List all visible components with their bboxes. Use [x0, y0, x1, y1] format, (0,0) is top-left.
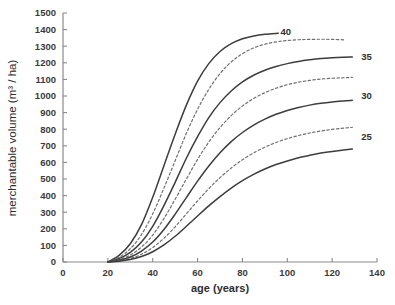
y-tick-label: 1000 — [35, 90, 56, 101]
merchantable-volume-line-chart: 0100200300400500600700800900100011001200… — [0, 0, 395, 305]
y-tick-label: 0 — [51, 256, 56, 267]
series-curve-32.5 — [108, 77, 352, 262]
x-tick-label: 120 — [324, 267, 340, 278]
series-curve-37.5 — [108, 39, 346, 262]
y-axis-title: merchantable volume (m³ / ha) — [6, 60, 18, 217]
x-tick-label: 80 — [237, 267, 248, 278]
series-label-40: 40 — [281, 26, 292, 37]
y-tick-label: 300 — [40, 207, 56, 218]
y-tick-group: 0100200300400500600700800900100011001200… — [35, 7, 67, 267]
x-tick-label: 0 — [60, 267, 65, 278]
x-axis-title: age (years) — [191, 282, 249, 294]
y-tick-label: 1100 — [35, 74, 56, 85]
y-tick-label: 100 — [40, 240, 56, 251]
y-tick-label: 1400 — [35, 24, 56, 35]
y-tick-label: 600 — [40, 157, 56, 168]
x-tick-label: 60 — [192, 267, 203, 278]
x-tick-label: 40 — [147, 267, 158, 278]
y-tick-label: 400 — [40, 190, 56, 201]
series-label-25: 25 — [361, 131, 372, 142]
curve-group — [108, 33, 352, 262]
y-tick-label: 500 — [40, 173, 56, 184]
y-tick-label: 800 — [40, 124, 56, 135]
series-curve-35 — [108, 57, 352, 262]
series-curve-40 — [108, 33, 278, 262]
x-tick-label: 20 — [103, 267, 114, 278]
series-curve-27.5 — [108, 127, 352, 262]
y-tick-label: 200 — [40, 223, 56, 234]
series-label-30: 30 — [361, 90, 372, 101]
y-tick-label: 700 — [40, 140, 56, 151]
y-tick-label: 900 — [40, 107, 56, 118]
series-label-group: 40353025 — [281, 26, 373, 142]
series-label-35: 35 — [361, 51, 372, 62]
x-tick-label: 100 — [279, 267, 295, 278]
y-tick-label: 1500 — [35, 7, 56, 18]
y-tick-label: 1300 — [35, 41, 56, 52]
chart-figure: 0100200300400500600700800900100011001200… — [0, 0, 395, 305]
y-tick-label: 1200 — [35, 57, 56, 68]
series-curve-25 — [108, 149, 352, 262]
x-tick-label: 140 — [369, 267, 385, 278]
